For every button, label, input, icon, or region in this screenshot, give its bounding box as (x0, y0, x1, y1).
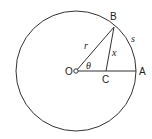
label-a: A (139, 66, 146, 77)
label-x: x (111, 47, 117, 58)
label-s: s (131, 33, 135, 44)
label-theta: θ (86, 60, 91, 71)
label-o: O (65, 66, 73, 77)
circle-diagram: O A B C r x s θ (0, 0, 152, 139)
label-c: C (102, 74, 109, 85)
label-b: B (110, 11, 117, 22)
center-point-o (74, 69, 78, 73)
radius-ob (76, 27, 114, 71)
label-r: r (84, 40, 88, 51)
diagram-svg: O A B C r x s θ (0, 0, 152, 139)
